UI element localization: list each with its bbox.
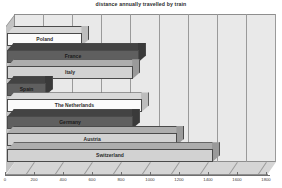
x-axis-line bbox=[6, 175, 270, 176]
x-axis-tick-label: 1000 bbox=[145, 177, 154, 182]
x-axis-tick bbox=[63, 172, 64, 176]
x-axis-tick-label: 400 bbox=[60, 177, 67, 182]
x-axis-tick-label: 1400 bbox=[203, 177, 212, 182]
x-axis-tick-label: 600 bbox=[89, 177, 96, 182]
x-axis-tick bbox=[237, 172, 238, 176]
chart-title: distance annually travelled by train bbox=[0, 1, 282, 7]
plot-area: PolandFranceItalySpainThe NetherlandsGer… bbox=[6, 14, 276, 174]
x-axis-tick-label: 0 bbox=[4, 177, 6, 182]
chart-root: distance annually travelled by train Pol… bbox=[0, 0, 282, 188]
x-axis-tick bbox=[150, 172, 151, 176]
x-axis-tick bbox=[208, 172, 209, 176]
x-axis-tick bbox=[5, 172, 6, 176]
x-axis-tick-label: 200 bbox=[31, 177, 38, 182]
x-axis-tick-label: 1800 bbox=[261, 177, 270, 182]
x-axis-tick bbox=[179, 172, 180, 176]
x-axis-tick-label: 800 bbox=[118, 177, 125, 182]
gridline bbox=[188, 14, 189, 162]
x-axis-tick-label: 1200 bbox=[174, 177, 183, 182]
bar-switzerland[interactable]: Switzerland bbox=[7, 149, 213, 162]
gridline bbox=[217, 14, 218, 162]
bar-label: Switzerland bbox=[7, 149, 213, 162]
x-axis-tick bbox=[121, 172, 122, 176]
x-axis-tick bbox=[92, 172, 93, 176]
gridline bbox=[275, 14, 276, 162]
x-axis-tick-label: 1600 bbox=[232, 177, 241, 182]
x-axis-tick bbox=[266, 172, 267, 176]
gridline bbox=[246, 14, 247, 162]
x-axis-tick bbox=[34, 172, 35, 176]
